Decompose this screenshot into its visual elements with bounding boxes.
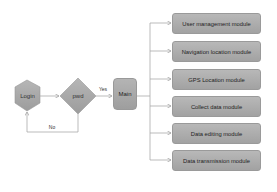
yes-edge-label: Yes	[97, 86, 109, 92]
module-gps-location: GPS Location module	[172, 69, 261, 90]
module-user-management: User management module	[172, 13, 261, 34]
login-node: Login	[15, 93, 40, 99]
decision-node: pwd	[65, 93, 91, 99]
module-data-editing: Data editing module	[172, 123, 261, 144]
module-navigation-location: Navigation location module	[172, 41, 261, 62]
module-data-transmission: Data transmission module	[172, 150, 261, 171]
no-edge-label: No	[46, 124, 58, 130]
module-collect-data: Collect data module	[172, 96, 261, 117]
main-node: Main	[113, 78, 137, 110]
